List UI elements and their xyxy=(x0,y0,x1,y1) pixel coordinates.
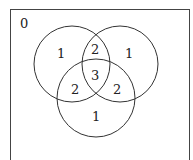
region-c-only: 1 xyxy=(92,109,100,124)
region-b-and-c: 2 xyxy=(113,82,121,97)
region-a-and-c: 2 xyxy=(71,82,79,97)
region-b-only: 1 xyxy=(125,46,133,61)
region-a-and-b: 2 xyxy=(91,42,99,57)
region-a-only: 1 xyxy=(57,46,65,61)
universe-label: 0 xyxy=(20,16,28,31)
venn-diagram: 0 1 1 2 3 2 2 1 xyxy=(0,0,193,160)
region-a-b-c: 3 xyxy=(91,68,99,83)
